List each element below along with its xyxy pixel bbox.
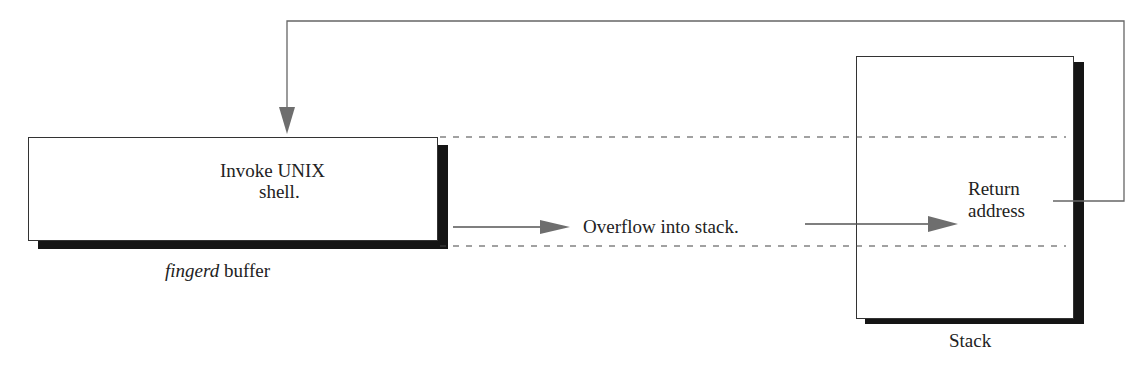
arrowhead-down-icon — [279, 107, 295, 134]
buffer-text-line2: shell. — [259, 181, 300, 202]
connector-layer — [0, 0, 1126, 365]
buffer-caption-rest: buffer — [219, 260, 270, 281]
stack-caption: Stack — [949, 330, 991, 351]
arrowhead-right-icon — [928, 216, 958, 232]
return-address-loop-line — [287, 21, 1124, 201]
overflow-label: Overflow into stack. — [583, 216, 739, 237]
buffer-caption-italic: fingerd — [165, 260, 219, 281]
buffer-text-line1: Invoke UNIX — [220, 160, 325, 181]
arrowhead-right-icon — [540, 220, 570, 234]
return-address-line2: address — [968, 200, 1025, 221]
return-address-line1: Return — [968, 178, 1020, 199]
buffer-caption: fingerd buffer — [165, 260, 270, 281]
